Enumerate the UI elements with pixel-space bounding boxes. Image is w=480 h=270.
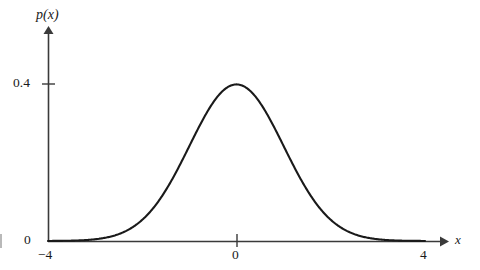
x-tick-label-minus-4: −4	[38, 248, 52, 262]
gaussian-distribution-figure: p(x) x 0.4 0 −4 0 4	[0, 0, 480, 270]
y-axis-arrowhead	[44, 26, 54, 34]
x-tick-label-0: 0	[232, 248, 239, 262]
y-tick-label-0.4: 0.4	[13, 76, 30, 90]
x-axis-label: x	[455, 233, 461, 246]
x-axis-arrowhead	[440, 237, 449, 247]
plot-canvas	[0, 0, 480, 270]
y-tick-label-0: 0	[24, 233, 31, 247]
y-axis-label: p(x)	[36, 8, 59, 22]
x-tick-label-4: 4	[420, 248, 427, 262]
gaussian-curve	[48, 84, 425, 241]
